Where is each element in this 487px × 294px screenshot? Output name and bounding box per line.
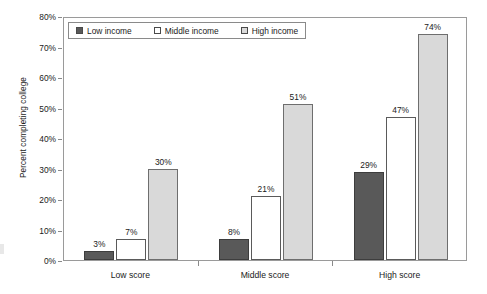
scan-edge-artifact — [0, 244, 4, 254]
legend-swatch-icon — [241, 27, 248, 34]
y-axis-tick-mark — [58, 17, 62, 18]
legend-item-high-income: High income — [241, 26, 299, 36]
bar-middle-score-high-income — [283, 104, 313, 260]
y-axis-tick-label: 40% — [30, 134, 56, 144]
y-axis-tick-mark — [58, 170, 62, 171]
bar-high-score-high-income — [418, 34, 448, 260]
y-axis-tick-label: 0% — [30, 256, 56, 266]
plot-inner: 3%7%30%8%21%51%29%47%74% — [64, 18, 466, 260]
y-axis-tick-label: 60% — [30, 73, 56, 83]
bar-value-label: 8% — [228, 227, 240, 237]
legend-label: Middle income — [165, 26, 219, 36]
bar-value-label: 29% — [360, 160, 377, 170]
y-axis-tick-label: 10% — [30, 226, 56, 236]
bar-chart: Percent completing college 0%10%20%30%40… — [0, 0, 487, 294]
bar-value-label: 51% — [290, 92, 307, 102]
bar-value-label: 3% — [93, 239, 105, 249]
y-axis-tick-mark — [58, 48, 62, 49]
y-axis-tick-label: 20% — [30, 195, 56, 205]
y-axis-tick-mark — [58, 139, 62, 140]
y-axis-tick-mark — [58, 78, 62, 79]
y-axis-tick-mark — [58, 261, 62, 262]
x-axis-category-label: Low score — [111, 270, 150, 280]
x-axis-tick-mark — [332, 261, 333, 266]
bar-value-label: 74% — [424, 22, 441, 32]
legend-swatch-icon — [154, 27, 161, 34]
chart-legend: Low incomeMiddle incomeHigh income — [68, 22, 306, 39]
x-axis-category-label: Middle score — [241, 270, 290, 280]
bar-middle-score-low-income — [219, 239, 249, 260]
y-axis-tick-mark — [58, 231, 62, 232]
plot-area: 3%7%30%8%21%51%29%47%74% — [63, 17, 467, 261]
legend-label: High income — [252, 26, 299, 36]
bar-value-label: 7% — [125, 227, 137, 237]
bar-low-score-low-income — [84, 251, 114, 260]
y-axis-tick-mark — [58, 109, 62, 110]
bar-value-label: 30% — [155, 157, 172, 167]
legend-label: Low income — [87, 26, 132, 36]
y-axis-tick-label: 50% — [30, 104, 56, 114]
y-axis-tick-label: 70% — [30, 43, 56, 53]
bar-value-label: 21% — [258, 184, 275, 194]
bar-low-score-high-income — [148, 169, 178, 261]
x-axis-category-label: High score — [379, 270, 420, 280]
bar-middle-score-middle-income — [251, 196, 281, 260]
bar-high-score-low-income — [354, 172, 384, 260]
y-axis-tick-mark — [58, 200, 62, 201]
y-axis-tick-label: 80% — [30, 12, 56, 22]
bar-low-score-middle-income — [116, 239, 146, 260]
x-axis-tick-mark — [198, 261, 199, 266]
bar-high-score-middle-income — [386, 117, 416, 260]
legend-item-middle-income: Middle income — [154, 26, 219, 36]
legend-item-low-income: Low income — [76, 26, 132, 36]
bar-value-label: 47% — [392, 105, 409, 115]
y-axis-tick-label: 30% — [30, 165, 56, 175]
legend-swatch-icon — [76, 27, 83, 34]
y-axis-tick-labels: 0%10%20%30%40%50%60%70%80% — [26, 0, 56, 294]
